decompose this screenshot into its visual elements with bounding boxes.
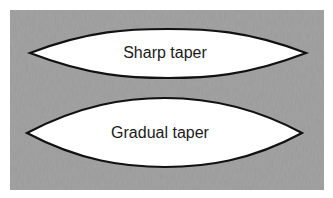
taper-diagram	[0, 0, 333, 198]
gradual-taper-label: Gradual taper	[111, 124, 209, 142]
sharp-taper-label: Sharp taper	[123, 44, 207, 62]
